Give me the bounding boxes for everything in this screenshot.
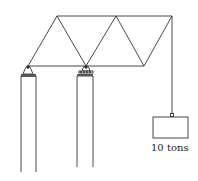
diagonal-member bbox=[86, 16, 116, 66]
truss-diagram bbox=[0, 0, 198, 181]
diagonal-member bbox=[144, 16, 172, 66]
roller-support-icon bbox=[77, 66, 93, 77]
columns bbox=[21, 76, 93, 172]
diagonal-member bbox=[116, 16, 144, 66]
hook-icon bbox=[171, 114, 174, 117]
load-label: 10 tons bbox=[151, 142, 189, 153]
diagonal-member bbox=[57, 16, 86, 66]
diagonal-member bbox=[28, 16, 57, 66]
weight-box bbox=[153, 117, 188, 138]
pin-support-icon bbox=[21, 66, 36, 77]
truss bbox=[28, 16, 172, 66]
hanging-load bbox=[153, 16, 188, 138]
